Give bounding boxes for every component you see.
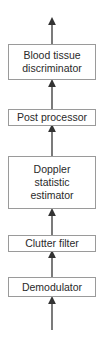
block-label: Clutter filter [25,237,79,250]
block-blood-tissue-discriminator: Blood tissue discriminator [8,44,96,80]
block-doppler-statistic-estimator: Doppler statistic estimator [8,156,96,209]
block-label-line: statistic [30,176,73,189]
block-clutter-filter: Clutter filter [8,235,96,252]
block-label-line: estimator [30,189,73,202]
block-label: Post processor [17,111,87,124]
block-label-line: Blood tissue [22,49,82,62]
block-demodulator: Demodulator [8,277,96,297]
block-label-line: Doppler [30,163,73,176]
block-post-processor: Post processor [8,109,96,126]
block-label: Demodulator [22,281,82,294]
block-label-line: discriminator [22,62,82,75]
